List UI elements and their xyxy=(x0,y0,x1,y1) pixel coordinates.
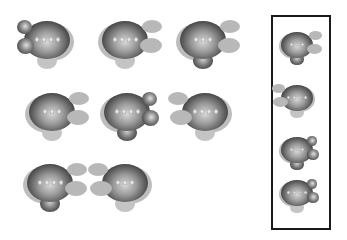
figure-face-dots xyxy=(35,109,69,114)
figure-face-dots xyxy=(285,96,308,99)
figure-face-dots xyxy=(30,37,64,42)
figure-face-dots xyxy=(285,43,308,46)
face-dot-icon xyxy=(120,37,124,42)
figure-ear-upper xyxy=(67,163,87,176)
face-dot-icon xyxy=(293,191,296,194)
face-dot-icon xyxy=(134,37,138,42)
figure-face-dots xyxy=(108,37,142,42)
figure-ear-lower xyxy=(307,149,319,160)
figure-ear-upper xyxy=(168,92,188,105)
figure-ear-upper xyxy=(69,92,89,105)
face-dot-icon xyxy=(301,43,304,46)
face-dot-icon xyxy=(299,96,302,99)
face-dot-icon xyxy=(200,109,204,114)
face-dot-icon xyxy=(42,37,46,42)
face-dot-icon xyxy=(52,180,56,185)
figure-ear-upper xyxy=(142,20,162,33)
face-dot-icon xyxy=(301,148,304,151)
face-dot-icon xyxy=(123,180,127,185)
face-dot-icon xyxy=(193,109,197,114)
face-dot-icon xyxy=(293,96,296,99)
face-dot-icon xyxy=(113,37,117,42)
face-dot-icon xyxy=(296,148,299,151)
face-dot-icon xyxy=(208,37,212,42)
figure-face-dots xyxy=(188,109,222,114)
figure-face-dots xyxy=(110,109,144,114)
face-dot-icon xyxy=(122,109,126,114)
figure-face-dots xyxy=(285,191,308,194)
face-dot-icon xyxy=(290,43,293,46)
figure-face-dots xyxy=(108,180,142,185)
figure-face-dots xyxy=(186,37,220,42)
face-dot-icon xyxy=(287,96,290,99)
figure-ear-upper xyxy=(17,20,32,34)
face-dot-icon xyxy=(56,37,60,42)
face-dot-icon xyxy=(296,43,299,46)
figure-ear-lower xyxy=(218,38,240,53)
face-dot-icon xyxy=(43,109,47,114)
face-dot-icon xyxy=(50,109,54,114)
face-dot-icon xyxy=(194,37,198,42)
face-dot-icon xyxy=(38,180,42,185)
figure-ear-upper xyxy=(220,20,240,33)
figure-ear-upper xyxy=(142,92,157,106)
figure-ear-lower xyxy=(142,110,159,126)
face-dot-icon xyxy=(45,180,49,185)
face-dot-icon xyxy=(129,109,133,114)
face-dot-icon xyxy=(127,37,131,42)
face-dot-icon xyxy=(115,109,119,114)
face-dot-icon xyxy=(207,109,211,114)
face-dot-icon xyxy=(35,37,39,42)
figure-ear-lower xyxy=(307,44,322,54)
figure-ear-lower xyxy=(307,192,319,203)
figure-ear-lower xyxy=(140,38,162,53)
face-dot-icon xyxy=(214,109,218,114)
figure-face-dots xyxy=(285,148,308,151)
face-dot-icon xyxy=(304,191,307,194)
face-dot-icon xyxy=(130,180,134,185)
face-dot-icon xyxy=(136,109,140,114)
figure-ear-lower xyxy=(65,181,87,196)
face-dot-icon xyxy=(201,37,205,42)
face-dot-icon xyxy=(49,37,53,42)
face-dot-icon xyxy=(290,148,293,151)
face-dot-icon xyxy=(287,191,290,194)
face-dot-icon xyxy=(304,96,307,99)
figure-ear-lower xyxy=(67,110,89,125)
face-dot-icon xyxy=(299,191,302,194)
face-dot-icon xyxy=(116,180,120,185)
face-dot-icon xyxy=(57,109,61,114)
figure-ear-upper xyxy=(88,163,108,176)
face-dot-icon xyxy=(59,180,63,185)
figure-face-dots xyxy=(33,180,67,185)
